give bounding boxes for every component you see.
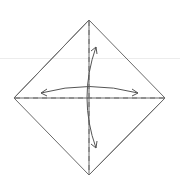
origami-diagram <box>0 0 180 179</box>
